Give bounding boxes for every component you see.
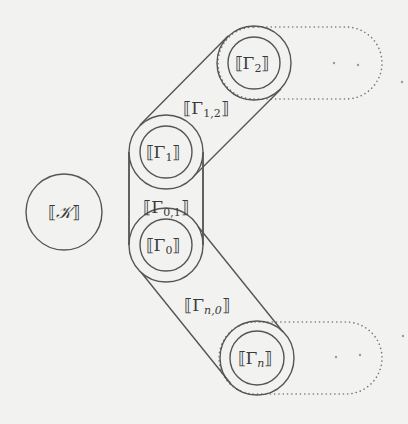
node-gn-label: ⟦Γn⟧ <box>238 348 273 370</box>
speck <box>333 62 335 64</box>
speck <box>402 335 404 337</box>
node-g0-label: ⟦Γ0⟧ <box>146 235 181 257</box>
speck <box>357 64 359 66</box>
edge-g12-label: ⟦Γ1,2⟧ <box>183 98 228 120</box>
node-k-label: ⟦𝒦⟧ <box>48 202 80 222</box>
speck <box>401 81 403 83</box>
edge-gn0-label: ⟦Γn,0⟧ <box>184 295 229 317</box>
semantic-graph-diagram: ⟦𝒦⟧ ⟦Γ1⟧ ⟦Γ2⟧ ⟦Γ0⟧ ⟦Γn⟧ ⟦Γ1,2⟧ ⟦Γ0,1⟧ ⟦Γ… <box>0 0 408 424</box>
edge-g01-label: ⟦Γ0,1⟧ <box>143 197 188 219</box>
speck <box>335 356 337 358</box>
node-g2-label: ⟦Γ2⟧ <box>235 53 270 75</box>
node-g1-label: ⟦Γ1⟧ <box>146 142 181 164</box>
speck <box>359 354 361 356</box>
